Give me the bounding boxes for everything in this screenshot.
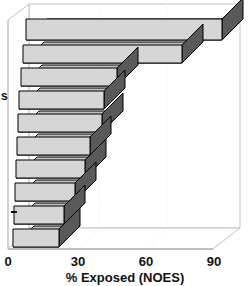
bar-front-face xyxy=(19,91,104,109)
x-tick-label-90: 90 xyxy=(207,254,221,269)
x-axis-title: % Exposed (NOES) xyxy=(66,270,184,285)
bar-front-face xyxy=(17,137,90,155)
y-axis-label: s xyxy=(1,89,8,103)
bar-front-face xyxy=(16,160,85,178)
bar-front-face xyxy=(18,114,102,132)
chart-container: 0 30 60 90 % Exposed (NOES) s xyxy=(0,0,250,286)
bar-front-face xyxy=(21,68,117,86)
bar-front-face xyxy=(15,183,75,201)
x-tick-label-60: 60 xyxy=(139,254,153,269)
bar-chart-3d: 0 30 60 90 % Exposed (NOES) s xyxy=(0,0,250,286)
bar-front-face xyxy=(14,206,64,224)
x-tick-label-0: 0 xyxy=(4,254,11,269)
bar-front-face xyxy=(23,45,182,63)
x-tick-label-30: 30 xyxy=(71,254,85,269)
bar-front-face xyxy=(13,229,59,247)
